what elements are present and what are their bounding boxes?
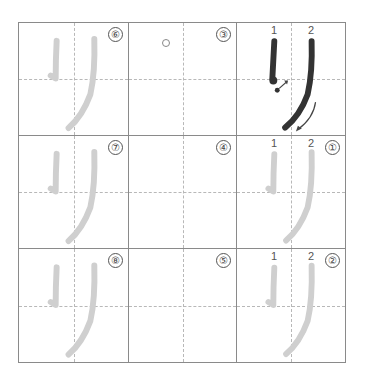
cell-5[interactable]: ⑤: [128, 248, 236, 362]
cell-7[interactable]: ⑦: [18, 135, 128, 248]
cell-model: 1 2: [236, 22, 345, 135]
guide-horizontal: [129, 192, 236, 193]
cell-number: ⑥: [108, 27, 123, 42]
cell-3[interactable]: ③: [128, 22, 236, 135]
cell-number: ①: [325, 140, 340, 155]
cell-number: ⑧: [108, 253, 123, 268]
cell-number: ④: [216, 140, 231, 155]
cell-6[interactable]: ⑥: [18, 22, 128, 135]
practice-grid: ⑥ ③ 1 2 ⑦ ④: [18, 22, 346, 363]
cell-1[interactable]: 1 2 ①: [236, 135, 345, 248]
start-point-marker-icon: [162, 39, 170, 47]
cell-number: ⑤: [216, 253, 231, 268]
cell-8[interactable]: ⑧: [18, 248, 128, 362]
guide-horizontal: [129, 306, 236, 307]
cell-number: ③: [216, 27, 231, 42]
cell-2[interactable]: 1 2 ②: [236, 248, 345, 362]
cell-4[interactable]: ④: [128, 135, 236, 248]
cell-number: ②: [325, 253, 340, 268]
model-character: [237, 23, 345, 135]
guide-horizontal: [129, 79, 236, 80]
cell-number: ⑦: [108, 140, 123, 155]
